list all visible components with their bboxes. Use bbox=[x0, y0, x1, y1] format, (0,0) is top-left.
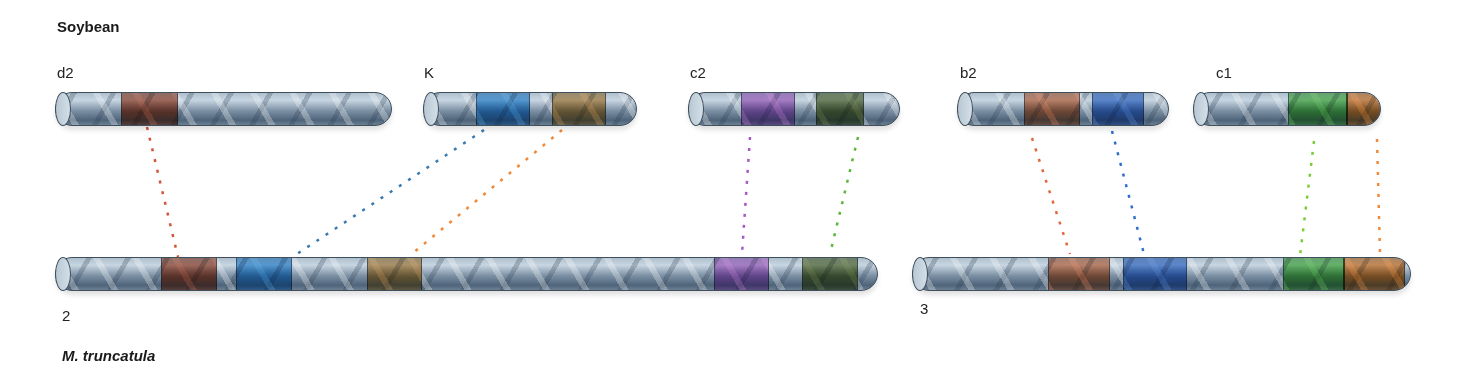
syntenic-block bbox=[236, 258, 292, 290]
chromosome-label-3: 3 bbox=[920, 300, 928, 317]
syntenic-block bbox=[1283, 258, 1345, 290]
chromosome-body bbox=[55, 257, 878, 291]
synteny-link-K-to-2 bbox=[297, 130, 484, 254]
syntenic-block bbox=[1343, 258, 1405, 290]
synteny-link-c2-to-2 bbox=[742, 137, 750, 254]
synteny-link-c2-to-2 bbox=[830, 137, 858, 254]
chromosome-2 bbox=[55, 257, 878, 291]
chromosome-end-cap bbox=[1193, 92, 1209, 126]
chromosome-c2 bbox=[688, 92, 900, 126]
chromosome-label-c2: c2 bbox=[690, 64, 706, 81]
synteny-link-c1-to-3 bbox=[1377, 139, 1380, 254]
chromosome-end-cap bbox=[55, 257, 71, 291]
syntenic-block bbox=[714, 258, 769, 290]
syntenic-block bbox=[1048, 258, 1110, 290]
chromosome-K bbox=[423, 92, 637, 126]
synteny-link-c1-to-3 bbox=[1300, 141, 1314, 256]
synteny-links bbox=[0, 0, 1463, 369]
chromosome-body bbox=[55, 92, 392, 126]
chromosome-end-cap bbox=[912, 257, 928, 291]
syntenic-block bbox=[1288, 93, 1348, 125]
syntenic-block bbox=[1092, 93, 1144, 125]
syntenic-block bbox=[816, 93, 864, 125]
synteny-link-d2-to-2 bbox=[147, 127, 178, 257]
chromosome-label-d2: d2 bbox=[57, 64, 74, 81]
syntenic-block bbox=[121, 93, 178, 125]
chromosome-body bbox=[957, 92, 1169, 126]
synteny-link-K-to-2 bbox=[413, 130, 562, 253]
syntenic-block bbox=[367, 258, 422, 290]
syntenic-block bbox=[741, 93, 795, 125]
chromosome-end-cap bbox=[55, 92, 71, 126]
chromosome-3 bbox=[912, 257, 1411, 291]
chromosome-body bbox=[423, 92, 637, 126]
chromosome-body bbox=[1193, 92, 1381, 126]
chromosome-label-2: 2 bbox=[62, 307, 70, 324]
chromosome-label-K: K bbox=[424, 64, 434, 81]
syntenic-block bbox=[476, 93, 530, 125]
syntenic-block bbox=[161, 258, 217, 290]
chromosome-c1 bbox=[1193, 92, 1381, 126]
chromosome-end-cap bbox=[957, 92, 973, 126]
syntenic-block bbox=[1024, 93, 1080, 125]
chromosome-body bbox=[688, 92, 900, 126]
chromosome-b2 bbox=[957, 92, 1169, 126]
chromosome-label-b2: b2 bbox=[960, 64, 977, 81]
syntenic-block bbox=[1123, 258, 1187, 290]
chromosome-label-c1: c1 bbox=[1216, 64, 1232, 81]
syntenic-block bbox=[552, 93, 606, 125]
syntenic-block bbox=[802, 258, 858, 290]
synteny-link-b2-to-3 bbox=[1032, 138, 1070, 254]
syntenic-block bbox=[1346, 93, 1381, 125]
chromosome-d2 bbox=[55, 92, 392, 126]
chromosome-end-cap bbox=[688, 92, 704, 126]
chromosome-end-cap bbox=[423, 92, 439, 126]
synteny-link-b2-to-3 bbox=[1112, 131, 1144, 254]
chromosome-body bbox=[912, 257, 1411, 291]
